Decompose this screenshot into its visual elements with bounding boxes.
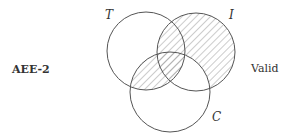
label-t: T <box>105 8 114 22</box>
venn-diagram: T I C <box>0 0 291 138</box>
label-c: C <box>212 110 221 124</box>
label-i: I <box>228 8 234 22</box>
